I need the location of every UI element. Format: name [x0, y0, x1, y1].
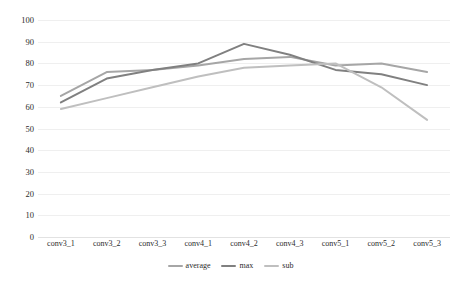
x-axis-tick-label: conv3_1 — [47, 240, 75, 248]
legend-item-max[interactable]: max — [221, 262, 253, 270]
x-axis-tick-label: conv3_3 — [139, 240, 167, 248]
gridline — [38, 237, 450, 238]
x-axis-tick-label: conv5_3 — [413, 240, 441, 248]
x-axis-tick-label: conv4_1 — [184, 240, 212, 248]
legend-label: max — [239, 262, 253, 270]
y-axis-tick-label: 50 — [26, 124, 35, 133]
chart-legend: averagemaxsub — [0, 262, 461, 270]
y-axis-tick-label: 100 — [21, 16, 34, 25]
legend-label: average — [186, 262, 211, 270]
legend-swatch-icon — [221, 265, 236, 267]
legend-item-sub[interactable]: sub — [264, 262, 293, 270]
y-axis-tick-label: 30 — [26, 168, 35, 177]
y-axis-tick-label: 10 — [26, 211, 35, 220]
y-axis-tick-label: 0 — [30, 233, 34, 242]
x-axis-tick-label: conv5_2 — [368, 240, 396, 248]
line-chart: 0102030405060708090100 conv3_1conv3_2con… — [0, 0, 461, 286]
x-axis-tick-label: conv4_2 — [230, 240, 258, 248]
y-axis-tick-label: 20 — [26, 189, 35, 198]
x-axis-labels: conv3_1conv3_2conv3_3conv4_1conv4_2conv4… — [38, 240, 450, 254]
series-line-max — [61, 44, 427, 103]
y-axis-labels: 0102030405060708090100 — [0, 20, 34, 237]
legend-swatch-icon — [264, 265, 279, 267]
x-axis-tick-label: conv4_3 — [276, 240, 304, 248]
y-axis-tick-label: 80 — [26, 59, 35, 68]
plot-area — [38, 20, 450, 237]
x-axis-tick-label: conv3_2 — [93, 240, 121, 248]
legend-item-average[interactable]: average — [168, 262, 211, 270]
series-layer — [38, 20, 450, 237]
y-axis-tick-label: 60 — [26, 103, 35, 112]
legend-label: sub — [282, 262, 293, 270]
y-axis-tick-label: 40 — [26, 146, 35, 155]
y-axis-tick-label: 90 — [26, 37, 35, 46]
x-axis-tick-label: conv5_1 — [322, 240, 350, 248]
y-axis-tick-label: 70 — [26, 81, 35, 90]
legend-swatch-icon — [168, 265, 183, 267]
